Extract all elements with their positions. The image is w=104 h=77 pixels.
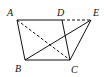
point-label-E: E <box>92 7 99 18</box>
segment-AC-dashed <box>17 20 70 60</box>
segment-BE <box>25 20 91 60</box>
point-label-A: A <box>6 7 14 18</box>
segment-AB <box>17 20 25 60</box>
point-label-D: D <box>56 7 65 18</box>
point-label-C: C <box>71 64 78 75</box>
segment-DC <box>62 20 70 60</box>
geometry-diagram: A D E B C <box>0 0 104 77</box>
point-label-B: B <box>15 63 21 74</box>
